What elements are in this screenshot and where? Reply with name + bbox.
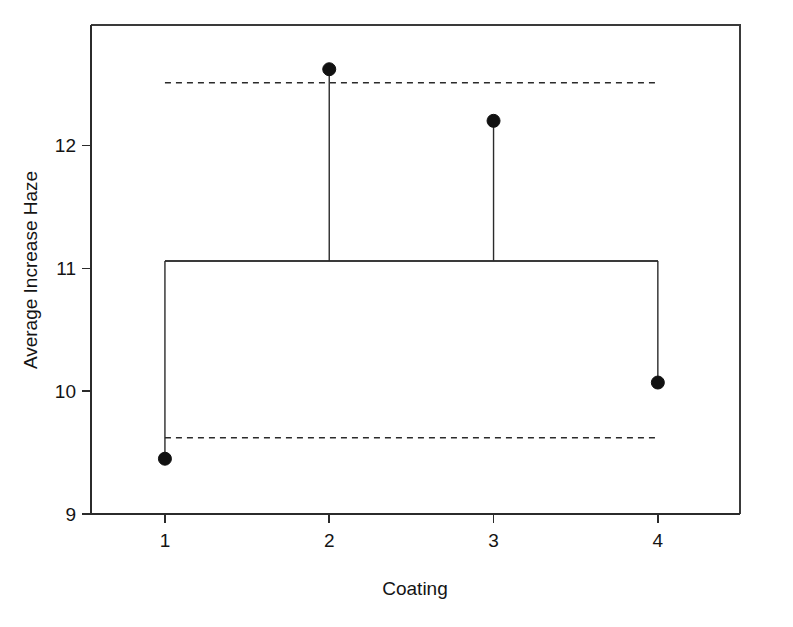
chart-container: 9101112 1234 Average Increase Haze Coati…: [0, 0, 793, 627]
y-tick-label: 9: [65, 504, 76, 525]
x-tick-label: 4: [653, 530, 664, 551]
stem-lines: [165, 69, 658, 458]
y-axis-ticks: 9101112: [55, 135, 91, 525]
x-tick-label: 3: [488, 530, 499, 551]
reference-lines: [165, 83, 658, 438]
data-point-marker[interactable]: [487, 114, 500, 127]
y-tick-label: 11: [56, 258, 76, 279]
y-tick-label: 12: [55, 135, 76, 156]
x-tick-label: 1: [160, 530, 171, 551]
y-axis-title: Average Increase Haze: [20, 171, 41, 369]
data-point-marker[interactable]: [323, 63, 336, 76]
main-effects-plot: 9101112 1234 Average Increase Haze Coati…: [0, 0, 793, 627]
x-tick-label: 2: [324, 530, 335, 551]
x-axis-title: Coating: [382, 578, 448, 599]
data-point-marker[interactable]: [158, 452, 171, 465]
data-point-marker[interactable]: [651, 376, 664, 389]
data-points: [158, 63, 664, 465]
x-axis-ticks: 1234: [160, 514, 664, 551]
plot-frame: [91, 25, 740, 514]
y-tick-label: 10: [55, 381, 76, 402]
